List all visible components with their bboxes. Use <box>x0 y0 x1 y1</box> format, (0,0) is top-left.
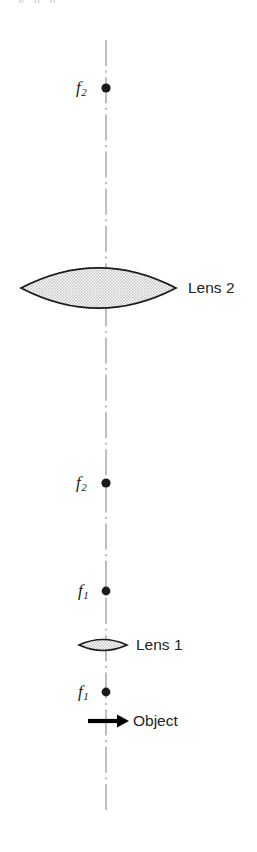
focal-label-f1-lower: f1 <box>78 683 89 702</box>
focal-point-dot-f2-lower <box>101 478 110 487</box>
focal-point-dot-f1-upper <box>102 587 111 596</box>
focal-label-f2-top: f2 <box>76 79 87 98</box>
object-label: Object <box>133 713 178 729</box>
lens-shape-lens-1 <box>79 640 127 651</box>
lens-group <box>21 268 176 651</box>
focal-point-dot-f1-lower <box>102 688 111 697</box>
optics-figure: y g g Lens 2Lens 1f2f2f1f1Object <box>0 0 257 852</box>
object-arrow-group <box>88 715 129 728</box>
lens-shape-lens-2 <box>21 268 176 308</box>
focal-label-f1-upper: f1 <box>78 582 89 601</box>
object-arrow-head <box>117 715 129 728</box>
focal-label-f2-lower: f2 <box>76 474 87 493</box>
lens-label-lens-1: Lens 1 <box>136 637 183 653</box>
object-arrow-shaft <box>88 719 117 723</box>
lens-label-lens-2: Lens 2 <box>188 280 235 296</box>
focal-point-dot-f2-top <box>101 83 110 92</box>
figure-canvas <box>0 0 257 852</box>
